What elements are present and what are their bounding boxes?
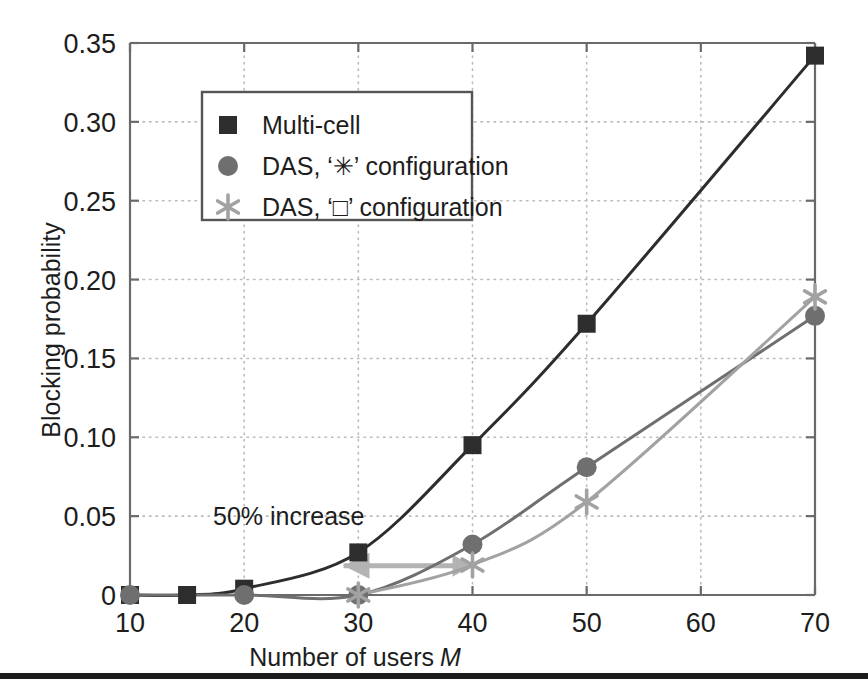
y-tick-label: 0 [101, 581, 116, 611]
x-tick-label: 70 [800, 608, 830, 638]
legend-label: Multi-cell [262, 111, 361, 139]
marker-square [578, 315, 596, 333]
marker-square [178, 586, 196, 604]
marker-square [219, 116, 237, 134]
annotation-50-percent-increase: 50% increase [213, 502, 364, 530]
legend-label: DAS, ‘✳’ configuration [262, 152, 509, 180]
x-tick-label: 50 [572, 608, 602, 638]
marker-circle [577, 457, 597, 477]
y-tick-label: 0.30 [63, 108, 116, 138]
y-tick-label: 0.05 [63, 502, 116, 532]
marker-circle [218, 156, 238, 176]
legend[interactable]: Multi-cellDAS, ‘✳’ configurationDAS, ‘□’… [202, 92, 509, 221]
y-tick-label: 0.35 [63, 29, 116, 59]
page-bottom-rule [0, 673, 868, 679]
y-axis-tick-labels: 00.050.100.150.200.250.300.35 [63, 29, 116, 611]
marker-square [806, 47, 824, 65]
legend-entry[interactable]: DAS, ‘✳’ configuration [218, 152, 509, 180]
legend-label: DAS, ‘□’ configuration [262, 193, 503, 221]
y-tick-label: 0.15 [63, 344, 116, 374]
figure-container: 00.050.100.150.200.250.300.35 1020304050… [0, 0, 868, 689]
y-tick-label: 0.10 [63, 423, 116, 453]
y-tick-label: 0.25 [63, 187, 116, 217]
x-tick-label: 30 [343, 608, 373, 638]
marker-circle [120, 585, 140, 605]
x-tick-label: 40 [457, 608, 487, 638]
marker-square [464, 436, 482, 454]
marker-circle [234, 585, 254, 605]
x-axis-title-text: Number of users [249, 643, 434, 671]
blocking-probability-chart: 00.050.100.150.200.250.300.35 1020304050… [0, 0, 868, 689]
x-tick-label: 10 [115, 608, 145, 638]
x-tick-label: 60 [686, 608, 716, 638]
marker-square [349, 543, 367, 561]
y-axis-title: Blocking probability [37, 222, 65, 438]
x-axis-tick-labels: 10203040506070 [115, 608, 830, 638]
y-tick-label: 0.20 [63, 266, 116, 296]
x-tick-label: 20 [229, 608, 259, 638]
x-axis-title: Number of users [249, 643, 434, 671]
x-axis-title-symbol: M [440, 643, 461, 671]
